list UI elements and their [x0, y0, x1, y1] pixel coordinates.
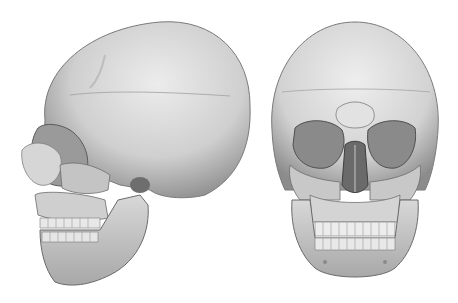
skull-image-canvas — [0, 0, 458, 303]
skull-illustration — [0, 0, 458, 303]
frontal-skull — [272, 22, 439, 277]
lateral-upper-teeth — [40, 218, 100, 228]
left-orbit — [293, 121, 344, 169]
lateral-skull — [22, 22, 250, 285]
lateral-maxilla — [35, 192, 108, 220]
